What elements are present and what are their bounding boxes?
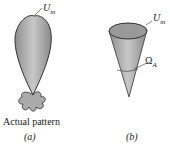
sublabel-b: (b) [126, 131, 138, 142]
label-um-b: Um [153, 12, 165, 26]
main-lobe [15, 16, 51, 95]
cone-top [109, 23, 147, 39]
sublabel-a: (a) [24, 131, 36, 142]
label-omega: ΩA [145, 55, 157, 69]
label-um-a: Um [43, 2, 55, 16]
diagram [0, 0, 170, 152]
caption-a: Actual pattern [3, 116, 60, 127]
cone [109, 30, 147, 97]
back-lobes [19, 92, 46, 111]
